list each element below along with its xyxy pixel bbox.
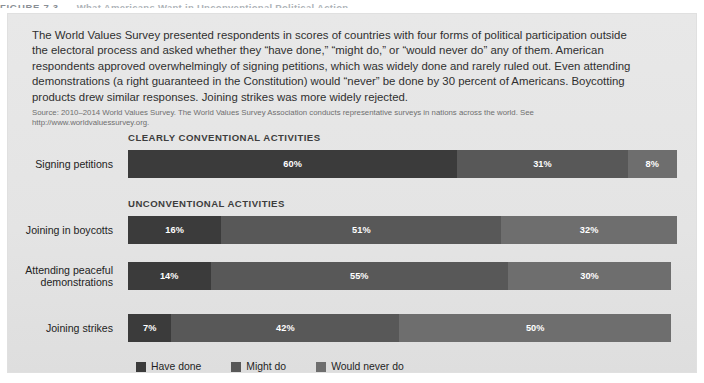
row-label-line: Signing petitions [35, 158, 113, 170]
legend-label: Might do [246, 361, 286, 372]
figure-panel: The World Values Survey presented respon… [8, 14, 696, 372]
bar-segment-value: 8% [646, 159, 659, 169]
figure-number: FIGURE 7.3 [0, 2, 59, 8]
bar-segment-value: 55% [350, 271, 369, 281]
row-label-line: Joining strikes [46, 322, 113, 334]
figure-title: FIGURE 7.3What Americans Want in Unconve… [0, 0, 704, 8]
row-label-line: Attending peaceful [25, 264, 113, 276]
bar-segment-might-do: 55% [211, 262, 509, 290]
bar-segment-would-never-do: 50% [399, 314, 671, 342]
caption-source: Source: 2010–2014 World Values Survey. T… [32, 108, 632, 128]
legend-swatch-icon [231, 362, 241, 372]
bar-segment-have-done: 7% [128, 314, 171, 342]
bar-segment-might-do: 42% [171, 314, 399, 342]
figure-title-text: What Americans Want in Unconventional Po… [77, 2, 349, 8]
bar-segment-value: 32% [580, 225, 599, 235]
legend-swatch-icon [316, 362, 326, 372]
legend-label: Would never do [331, 361, 404, 372]
figure-root: FIGURE 7.3What Americans Want in Unconve… [0, 0, 704, 383]
row-label-attending-peaceful-demonstrations: Attending peaceful demonstrations [8, 262, 120, 290]
row-label-signing-petitions: Signing petitions [8, 150, 120, 178]
bar-segment-would-never-do: 30% [508, 262, 671, 290]
row-label-block: Attending peaceful demonstrations [25, 264, 113, 289]
caption-body: The World Values Survey presented respon… [32, 28, 632, 105]
bar-segment-value: 42% [276, 323, 295, 333]
bar-segment-would-never-do: 8% [628, 150, 677, 178]
bar-signing-petitions: 60% 31% 8% [128, 150, 677, 178]
bar-segment-have-done: 14% [128, 262, 211, 290]
bar-segment-value: 51% [352, 225, 371, 235]
bar-segment-might-do: 51% [221, 216, 501, 244]
bar-segment-would-never-do: 32% [501, 216, 677, 244]
bar-joining-in-boycotts: 16% 51% 32% [128, 216, 677, 244]
group-heading-unconventional: UNCONVENTIONAL ACTIVITIES [128, 198, 285, 209]
bar-joining-strikes: 7% 42% 50% [128, 314, 671, 342]
legend-item-might-do: Might do [231, 361, 286, 372]
bar-segment-value: 50% [526, 323, 545, 333]
bar-segment-value: 60% [283, 159, 302, 169]
bar-segment-value: 16% [165, 225, 184, 235]
legend-item-have-done: Have done [136, 361, 201, 372]
bar-segment-have-done: 16% [128, 216, 221, 244]
caption-block: The World Values Survey presented respon… [32, 28, 632, 128]
bar-segment-value: 30% [580, 271, 599, 281]
bar-segment-value: 14% [160, 271, 179, 281]
group-heading-conventional: CLEARLY CONVENTIONAL ACTIVITIES [128, 132, 321, 143]
legend-item-would-never-do: Would never do [316, 361, 404, 372]
bar-attending-peaceful-demonstrations: 14% 55% 30% [128, 262, 671, 290]
row-label-joining-in-boycotts: Joining in boycotts [8, 216, 120, 244]
bar-segment-value: 31% [533, 159, 552, 169]
chart-legend: Have done Might do Would never do [136, 361, 404, 372]
row-label-line: Joining in boycotts [26, 224, 113, 236]
legend-swatch-icon [136, 362, 146, 372]
stacked-bar-chart: CLEARLY CONVENTIONAL ACTIVITIES Signing … [8, 132, 696, 372]
bar-segment-might-do: 31% [457, 150, 627, 178]
legend-label: Have done [151, 361, 201, 372]
row-label-joining-strikes: Joining strikes [8, 314, 120, 342]
bar-segment-value: 7% [143, 323, 156, 333]
bar-segment-have-done: 60% [128, 150, 457, 178]
row-label-line: demonstrations [41, 276, 113, 288]
